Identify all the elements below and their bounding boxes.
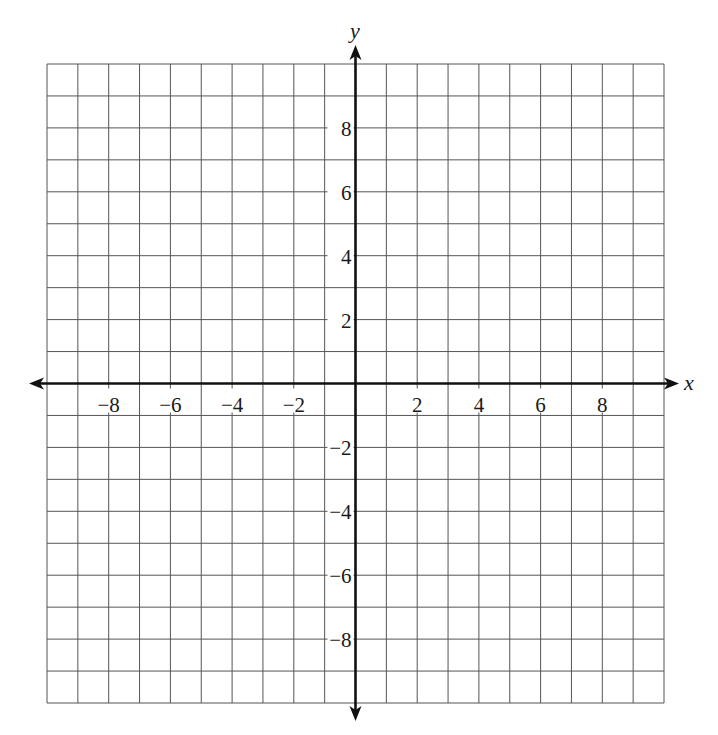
coordinate-plane: −8−6−4−22468 8642−2−4−6−8 x y (0, 0, 718, 735)
y-tick-label: −6 (329, 564, 351, 588)
y-tick-label: 8 (341, 117, 352, 141)
x-tick-label: −8 (98, 393, 120, 417)
x-tick-label: −4 (221, 393, 244, 417)
y-tick-label: 4 (341, 245, 352, 269)
y-tick-label: 2 (341, 309, 352, 333)
y-axis-label: y (348, 18, 360, 43)
x-tick-label: −6 (159, 393, 181, 417)
x-tick-label: 2 (412, 393, 423, 417)
x-tick-label: −2 (283, 393, 305, 417)
x-tick-label: 4 (474, 393, 485, 417)
axes (29, 45, 679, 721)
x-tick-label: 8 (597, 393, 608, 417)
y-tick-label: 6 (341, 181, 352, 205)
y-tick-label: −2 (329, 436, 351, 460)
x-axis-label: x (683, 370, 694, 395)
x-tick-label: 6 (535, 393, 546, 417)
y-tick-label: −4 (329, 500, 352, 524)
y-tick-label: −8 (329, 628, 351, 652)
